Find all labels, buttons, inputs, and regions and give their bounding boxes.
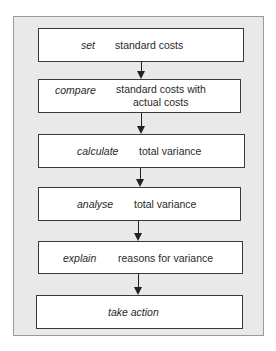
arrow-down-icon [134, 221, 143, 241]
step-explain-reasons: explain reasons for variance [38, 241, 243, 274]
step-object-line1: standard costs with [116, 83, 206, 96]
step-object: total variance [134, 198, 196, 211]
step-verb: take action [108, 306, 159, 318]
step-compare-costs: compare standard costs with actual costs [38, 79, 241, 113]
step-set-standard-costs: set standard costs [38, 28, 244, 62]
step-verb: explain [63, 252, 96, 264]
step-object-line2: actual costs [133, 96, 188, 109]
step-object: standard costs [115, 39, 183, 52]
arrow-down-icon [136, 168, 145, 187]
step-take-action: take action [36, 295, 243, 329]
step-verb: analyse [77, 198, 113, 210]
arrow-down-icon [137, 62, 146, 79]
arrow-down-icon [137, 113, 146, 134]
step-verb: compare [55, 84, 96, 96]
step-verb: set [81, 39, 95, 51]
step-verb: calculate [77, 145, 118, 157]
step-object: total variance [139, 145, 201, 158]
step-calculate-variance: calculate total variance [38, 134, 245, 168]
step-analyse-variance: analyse total variance [38, 187, 241, 221]
step-object: reasons for variance [118, 252, 213, 265]
arrow-down-icon [134, 274, 143, 295]
